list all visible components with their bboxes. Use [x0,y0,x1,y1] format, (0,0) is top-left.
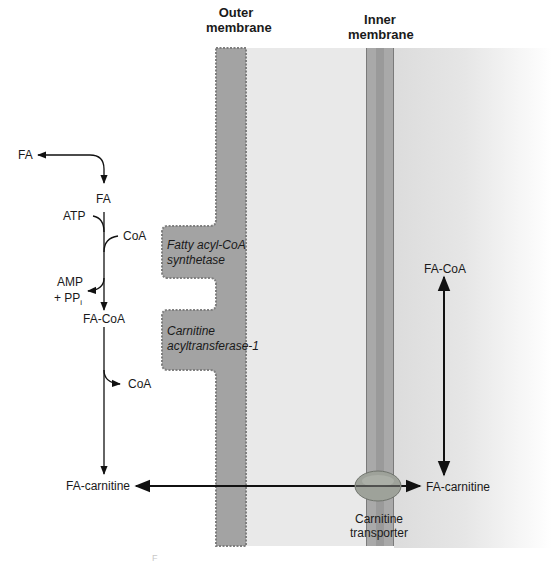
outer-header-line2: membrane [206,20,266,35]
outer-membrane [162,48,246,546]
fa-carnitine-matrix-label: FA-carnitine [426,480,490,494]
transporter-line2: transporter [348,526,410,540]
faint-artifact-glyph: F [152,553,158,563]
atp-input-curve [93,216,104,232]
carnitine-transporter [355,471,401,501]
fa-coa-label: FA-CoA [83,312,125,326]
coa-input-label: CoA [123,229,146,243]
fa-coa-matrix-label: FA-CoA [424,262,466,276]
carnitine-transporter-label: Carnitine transporter [348,512,410,540]
inner-membrane-header: Inner membrane [348,12,412,42]
inner-header-line1: Inner [348,12,412,27]
coa-output-arrow [104,370,120,384]
synthetase-line1: Fatty acyl-CoA [167,238,246,253]
cat1-line1: Carnitine [167,324,259,339]
carnitine-acyltransferase-1-label: Carnitine acyltransferase-1 [167,324,259,354]
amp-label: AMP [57,275,83,289]
fa-label: FA [96,192,111,206]
synthetase-line2: synthetase [167,253,246,268]
fa-carnitine-cytosol-label: FA-carnitine [66,479,130,493]
cat1-line2: acyltransferase-1 [167,339,259,354]
coa-output-label: CoA [128,377,151,391]
transporter-line1: Carnitine [348,512,410,526]
coa-input-curve [104,236,118,252]
atp-label: ATP [63,209,85,223]
outer-header-line1: Outer [206,5,266,20]
ppi-label: + PPi [54,291,82,307]
inner-header-line2: membrane [348,27,412,42]
fa-exchange-arrow [38,155,104,183]
ppi-prefix: + PP [54,291,80,305]
fa-left-label: FA [18,148,33,162]
amp-output-arrow [88,278,104,291]
ppi-subscript: i [80,298,82,307]
outer-membrane-header: Outer membrane [206,5,266,35]
fatty-acyl-coa-synthetase-label: Fatty acyl-CoA synthetase [167,238,246,268]
